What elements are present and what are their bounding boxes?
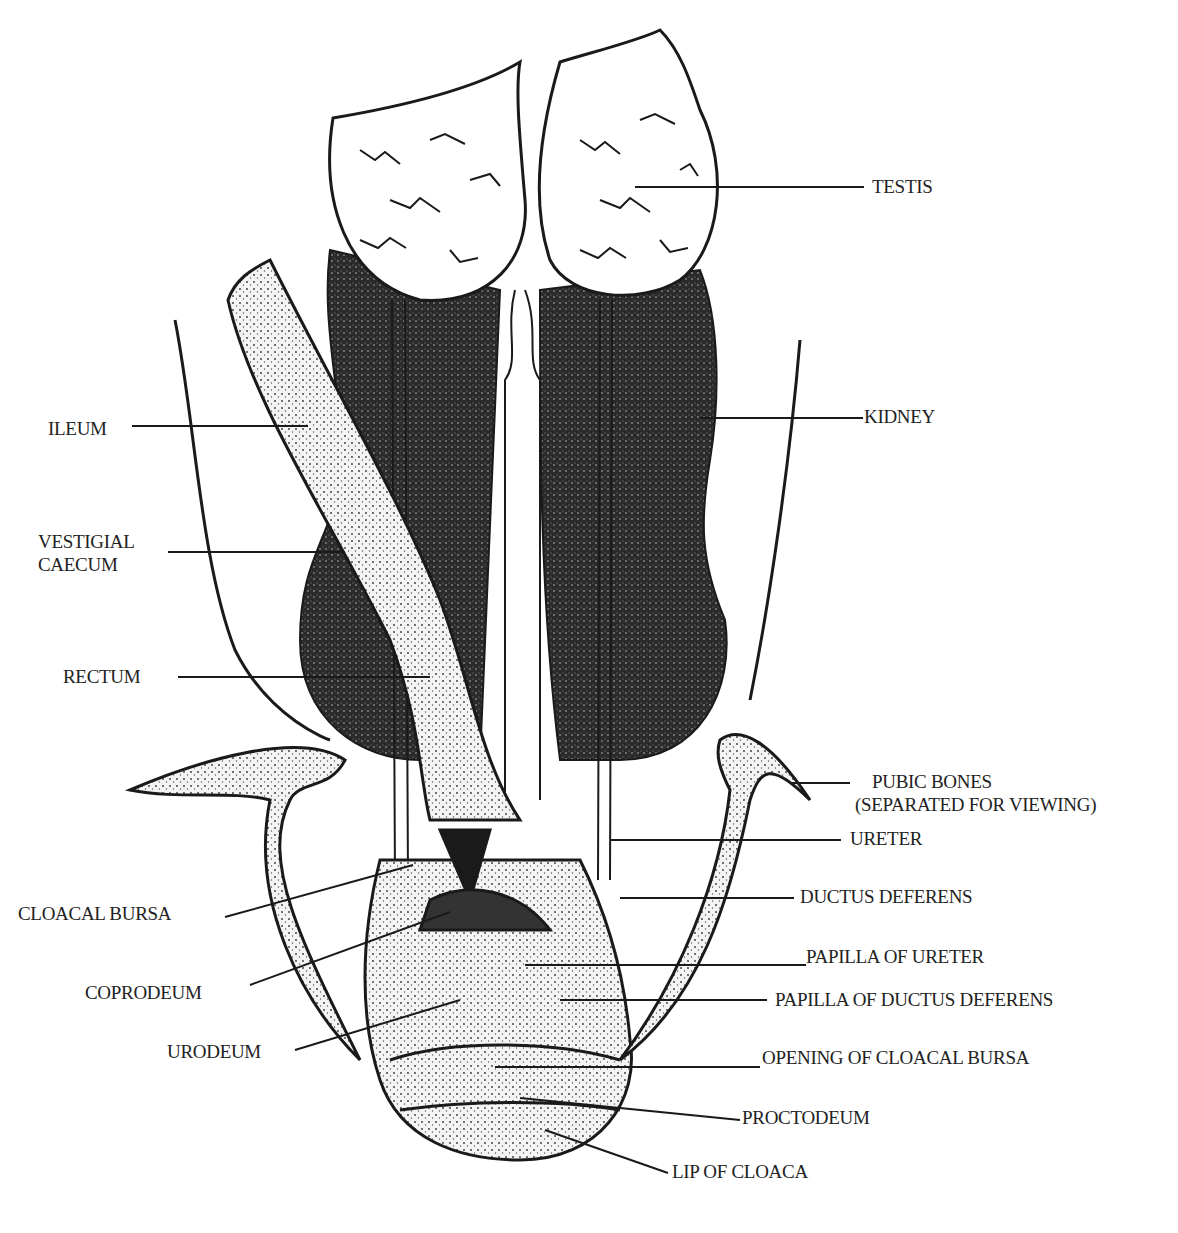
label-pubic-bones-line1: PUBIC BONES xyxy=(855,770,1096,793)
label-lip-of-cloaca: LIP OF CLOACA xyxy=(672,1161,808,1183)
label-vestigial-caecum-line1: VESTIGIAL xyxy=(38,530,135,553)
label-papilla-of-ureter: PAPILLA OF URETER xyxy=(806,946,984,968)
label-ileum: ILEUM xyxy=(48,418,107,440)
label-vestigial-caecum: VESTIGIAL CAECUM xyxy=(38,530,135,576)
cloaca xyxy=(365,830,632,1160)
label-papilla-of-ductus-deferens: PAPILLA OF DUCTUS DEFERENS xyxy=(775,989,1053,1011)
label-proctodeum: PROCTODEUM xyxy=(742,1107,870,1129)
label-rectum: RECTUM xyxy=(63,666,140,688)
testes xyxy=(330,30,718,300)
label-urodeum: URODEUM xyxy=(167,1041,261,1063)
label-cloacal-bursa: CLOACAL BURSA xyxy=(18,903,171,925)
label-opening-of-cloacal-bursa: OPENING OF CLOACAL BURSA xyxy=(762,1047,1029,1069)
testis-right xyxy=(539,30,717,295)
label-testis: TESTIS xyxy=(872,176,932,198)
label-vestigial-caecum-line2: CAECUM xyxy=(38,553,135,576)
label-pubic-bones-line2: (SEPARATED FOR VIEWING) xyxy=(855,793,1096,816)
label-pubic-bones: PUBIC BONES (SEPARATED FOR VIEWING) xyxy=(855,770,1096,816)
label-ductus-deferens: DUCTUS DEFERENS xyxy=(800,886,972,908)
label-kidney: KIDNEY xyxy=(864,406,935,428)
label-coprodeum: COPRODEUM xyxy=(85,982,202,1004)
label-ureter: URETER xyxy=(850,828,922,850)
